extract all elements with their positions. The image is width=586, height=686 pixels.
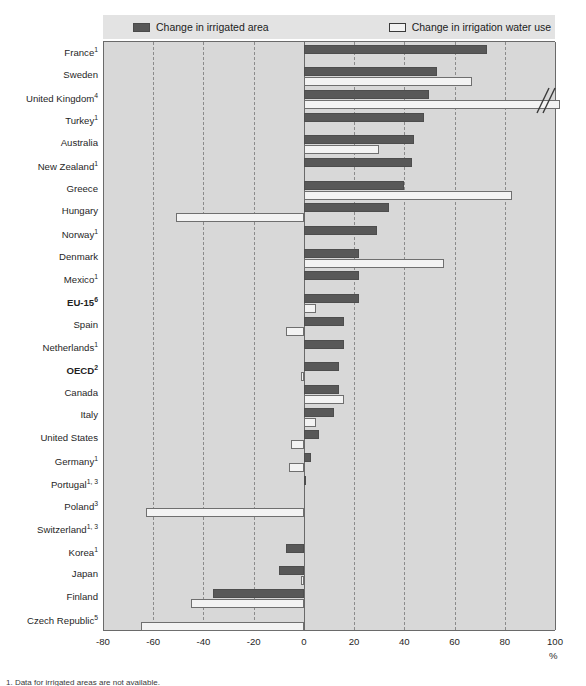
bar-irrigated-area [304, 430, 319, 439]
bar-water-use [304, 418, 317, 427]
tick-label: 20 [349, 636, 360, 647]
bar-water-use [301, 372, 304, 381]
category-label-norway: Norway1 [0, 228, 98, 240]
bar-row [103, 314, 555, 339]
category-label-switzerland: Switzerland1, 3 [0, 523, 98, 535]
bar-irrigated-area [304, 203, 389, 212]
bar-irrigated-area [304, 45, 487, 54]
bar-irrigated-area [304, 362, 339, 371]
category-label-australia: Australia [0, 137, 98, 148]
bar-row [103, 292, 555, 317]
category-label-france: France1 [0, 46, 98, 58]
bar-irrigated-area [286, 544, 304, 553]
bar-row [103, 269, 555, 294]
category-label-sweden: Sweden [0, 69, 98, 80]
light-swatch-icon [389, 23, 406, 32]
tick-label: -40 [197, 636, 211, 647]
chart-page: Change in irrigated area Change in irrig… [0, 0, 586, 686]
category-label-netherlands: Netherlands1 [0, 341, 98, 353]
category-label-poland: Poland3 [0, 500, 98, 512]
bar-water-use [289, 463, 304, 472]
bar-water-use [304, 259, 445, 268]
bar-row [103, 428, 555, 453]
chart-legend: Change in irrigated area Change in irrig… [103, 15, 555, 39]
bar-irrigated-area [213, 589, 303, 598]
category-label-hungary: Hungary [0, 205, 98, 216]
bar-row [103, 609, 555, 634]
bar-row [103, 519, 555, 544]
bar-row [103, 42, 555, 67]
category-label-spain: Spain [0, 319, 98, 330]
dark-swatch-icon [133, 23, 150, 32]
tick-label: -80 [96, 636, 110, 647]
bar-row [103, 564, 555, 589]
bar-irrigated-area [304, 476, 306, 485]
bar-water-use [141, 622, 304, 631]
legend-label-water-use: Change in irrigation water use [412, 21, 552, 33]
bar-row [103, 405, 555, 430]
category-label-united-kingdom: United Kingdom4 [0, 92, 98, 104]
figure-footnote: 1. Data for irrigated areas are not avai… [6, 678, 160, 686]
bar-irrigated-area [304, 181, 404, 190]
bar-row [103, 337, 555, 362]
category-label-czech-republic: Czech Republic5 [0, 614, 98, 626]
bar-water-use [291, 440, 304, 449]
bar-irrigated-area [304, 271, 359, 280]
bar-irrigated-area [304, 317, 344, 326]
bar-row [103, 178, 555, 203]
tick-label: 80 [499, 636, 510, 647]
bar-water-use [301, 576, 304, 585]
bar-irrigated-area [304, 249, 359, 258]
tick-label: 60 [449, 636, 460, 647]
category-label-eu-15: EU-156 [0, 296, 98, 308]
category-label-denmark: Denmark [0, 251, 98, 262]
bar-row [103, 450, 555, 475]
bar-irrigated-area [304, 67, 437, 76]
bar-row [103, 224, 555, 249]
bar-irrigated-area [304, 90, 430, 99]
category-label-united-states: United States [0, 432, 98, 443]
bar-water-use [176, 213, 304, 222]
bar-water-use [304, 191, 512, 200]
bar-irrigated-area [304, 453, 312, 462]
category-label-japan: Japan [0, 568, 98, 579]
category-label-italy: Italy [0, 409, 98, 420]
category-label-new-zealand: New Zealand1 [0, 160, 98, 172]
bar-row [103, 382, 555, 407]
bar-water-use [304, 77, 472, 86]
category-label-germany: Germany1 [0, 455, 98, 467]
bar-water-use [191, 599, 304, 608]
bar-row [103, 360, 555, 385]
bar-row [103, 87, 555, 112]
bar-irrigated-area [304, 158, 412, 167]
tick-label: 40 [399, 636, 410, 647]
category-label-turkey: Turkey1 [0, 114, 98, 126]
plot-area [103, 41, 555, 631]
tick-label: -60 [146, 636, 160, 647]
bar-row [103, 473, 555, 498]
bar-row [103, 110, 555, 135]
category-label-korea: Korea1 [0, 546, 98, 558]
bar-irrigated-area [304, 385, 339, 394]
category-label-portugal: Portugal1, 3 [0, 478, 98, 490]
tick-label: -20 [247, 636, 261, 647]
bar-irrigated-area [279, 566, 304, 575]
legend-label-irrigated-area: Change in irrigated area [156, 21, 269, 33]
bar-water-use [286, 327, 304, 336]
bar-row [103, 65, 555, 90]
category-label-finland: Finland [0, 591, 98, 602]
category-label-canada: Canada [0, 387, 98, 398]
bar-row [103, 496, 555, 521]
category-label-mexico: Mexico1 [0, 273, 98, 285]
bar-row [103, 155, 555, 180]
category-label-oecd: OECD2 [0, 364, 98, 376]
bar-water-use [304, 304, 317, 313]
tick-label: 0 [301, 636, 306, 647]
bar-water-use [146, 508, 304, 517]
category-label-greece: Greece [0, 183, 98, 194]
bar-irrigated-area [304, 294, 359, 303]
bar-irrigated-area [304, 226, 377, 235]
bar-water-use [304, 100, 560, 109]
bar-row [103, 133, 555, 158]
bar-row [103, 246, 555, 271]
